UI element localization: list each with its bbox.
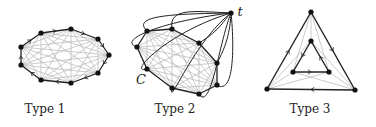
spoke-edge: [267, 41, 311, 89]
caption-type-2: Type 2: [154, 102, 195, 116]
spoke-edge: [267, 72, 329, 89]
vertex: [95, 36, 100, 41]
chord-edge: [41, 33, 71, 83]
apex-label-t: t: [237, 4, 243, 19]
vertex: [95, 70, 100, 75]
cycle-label-c: C: [136, 72, 146, 87]
cycle-edge: [172, 29, 199, 43]
caption-type-3: Type 3: [289, 102, 330, 116]
vertex: [308, 38, 313, 43]
vertex: [196, 91, 201, 96]
chord-edge: [71, 55, 109, 83]
chord-edge: [21, 47, 41, 80]
diagram-canvas: Type 1 Type 2 Type 3 C t: [0, 0, 376, 127]
chord-edge: [147, 31, 199, 94]
spoke-edge: [311, 12, 329, 72]
vertex: [196, 40, 201, 45]
vertex: [134, 44, 139, 49]
vertex: [352, 87, 357, 92]
vertex: [214, 82, 219, 87]
vertex: [144, 28, 149, 33]
chord-edge: [71, 39, 98, 83]
chord-edge: [137, 43, 199, 47]
chord-edge: [21, 47, 71, 83]
figure-type-3: [264, 9, 357, 92]
vertex: [214, 60, 219, 65]
vertex: [169, 85, 174, 90]
spoke-edge: [329, 72, 355, 90]
vertex: [228, 10, 233, 15]
spoke-edge: [293, 12, 311, 72]
vertex: [169, 26, 174, 31]
vertex: [264, 86, 269, 91]
vertex: [38, 30, 43, 35]
vertex: [290, 69, 295, 74]
vertex: [18, 44, 23, 49]
vertex: [106, 52, 111, 57]
vertex: [18, 62, 23, 67]
vertex: [308, 9, 313, 14]
vertex: [38, 77, 43, 82]
figure-type-1: [18, 26, 111, 85]
figure-type-2: [132, 10, 234, 97]
vertex: [326, 69, 331, 74]
vertex: [144, 66, 149, 71]
vertex: [68, 26, 73, 31]
vertex: [68, 80, 73, 85]
chord-edge: [172, 29, 199, 94]
caption-type-1: Type 1: [24, 102, 65, 116]
